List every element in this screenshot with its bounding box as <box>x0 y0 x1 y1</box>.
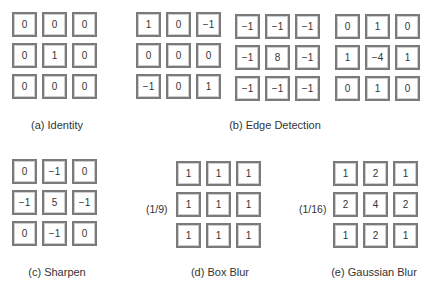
kernel-cell: 1 <box>393 161 418 186</box>
kernel-cell: 0 <box>166 74 191 99</box>
caption-sharpen: (c) Sharpen <box>28 266 85 278</box>
caption-edge-detection: (b) Edge Detection <box>229 119 321 131</box>
kernel-cell: 0 <box>395 76 420 101</box>
kernel-cell: 0 <box>335 14 360 39</box>
kernel-cell: 2 <box>393 192 418 217</box>
kernel-box-blur: 1 1 1 1 1 1 1 1 1 <box>176 161 261 248</box>
kernel-cell: −1 <box>265 76 290 101</box>
gaussian-blur-scale-factor: (1/16) <box>299 203 326 215</box>
kernel-cell: −1 <box>12 190 37 215</box>
kernel-cell: 0 <box>166 12 191 37</box>
kernel-edge-detection-2: −1 −1 −1 −1 8 −1 −1 −1 −1 <box>235 14 320 101</box>
box-blur-scale-factor: (1/9) <box>146 203 168 215</box>
caption-identity: (a) Identity <box>31 119 83 131</box>
kernel-cell: 5 <box>42 190 67 215</box>
kernel-cell: 2 <box>363 161 388 186</box>
kernel-cell: 0 <box>72 43 97 68</box>
kernel-cell: 0 <box>42 74 67 99</box>
caption-gaussian-blur: (e) Gaussian Blur <box>331 266 417 278</box>
kernel-identity: 0 0 0 0 1 0 0 0 0 <box>12 12 97 99</box>
kernel-cell: 1 <box>176 161 201 186</box>
kernel-cell: 1 <box>365 76 390 101</box>
kernel-cell: −1 <box>235 76 260 101</box>
kernel-cell: 0 <box>12 43 37 68</box>
kernel-cell: 1 <box>42 43 67 68</box>
kernel-cell: 1 <box>236 192 261 217</box>
kernel-cell: 0 <box>196 43 221 68</box>
kernel-cell: −1 <box>136 74 161 99</box>
kernel-cell: 1 <box>335 45 360 70</box>
kernel-cell: 1 <box>333 161 358 186</box>
kernel-cell: 1 <box>176 223 201 248</box>
kernel-cell: 0 <box>72 74 97 99</box>
kernel-cell: −1 <box>265 14 290 39</box>
kernel-cell: 0 <box>12 74 37 99</box>
kernel-cell: 0 <box>72 12 97 37</box>
kernel-cell: −1 <box>235 14 260 39</box>
kernel-cell: 2 <box>333 192 358 217</box>
kernel-cell: 0 <box>166 43 191 68</box>
kernel-cell: −1 <box>295 76 320 101</box>
kernel-cell: 0 <box>72 221 97 246</box>
kernel-cell: 0 <box>72 159 97 184</box>
kernel-cell: −1 <box>235 45 260 70</box>
kernel-cell: −4 <box>365 45 390 70</box>
kernel-cell: 1 <box>393 223 418 248</box>
kernel-cell: 1 <box>333 223 358 248</box>
kernel-cell: 0 <box>12 159 37 184</box>
kernel-cell: 0 <box>12 221 37 246</box>
kernel-cell: 1 <box>365 14 390 39</box>
kernel-edge-detection-3: 0 1 0 1 −4 1 0 1 0 <box>335 14 420 101</box>
kernel-cell: 1 <box>136 12 161 37</box>
kernel-cell: 1 <box>206 192 231 217</box>
kernel-cell: 1 <box>236 223 261 248</box>
kernel-cell: −1 <box>42 159 67 184</box>
kernel-cell: 1 <box>206 223 231 248</box>
kernel-cell: 1 <box>176 192 201 217</box>
kernel-cell: 0 <box>335 76 360 101</box>
kernel-cell: −1 <box>72 190 97 215</box>
kernel-cell: −1 <box>295 14 320 39</box>
kernel-cell: 2 <box>363 223 388 248</box>
kernel-cell: 0 <box>136 43 161 68</box>
kernel-cell: 1 <box>206 161 231 186</box>
kernel-cell: 0 <box>395 14 420 39</box>
kernel-edge-detection-1: 1 0 −1 0 0 0 −1 0 1 <box>136 12 221 99</box>
kernel-cell: −1 <box>295 45 320 70</box>
kernel-sharpen: 0 −1 0 −1 5 −1 0 −1 0 <box>12 159 97 246</box>
kernel-cell: 1 <box>196 74 221 99</box>
kernel-cell: −1 <box>42 221 67 246</box>
kernel-cell: 4 <box>363 192 388 217</box>
kernel-cell: −1 <box>196 12 221 37</box>
kernel-gaussian-blur: 1 2 1 2 4 2 1 2 1 <box>333 161 418 248</box>
kernel-cell: 0 <box>42 12 67 37</box>
caption-box-blur: (d) Box Blur <box>191 266 249 278</box>
kernel-cell: 1 <box>395 45 420 70</box>
kernel-cell: 1 <box>236 161 261 186</box>
kernel-cell: 8 <box>265 45 290 70</box>
kernel-cell: 0 <box>12 12 37 37</box>
